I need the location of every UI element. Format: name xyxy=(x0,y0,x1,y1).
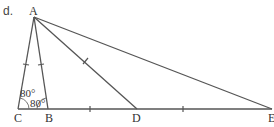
point-label-c: C xyxy=(14,111,22,125)
geometry-diagram: d. 80° 80° A C B D E xyxy=(0,0,274,127)
segment-ae xyxy=(34,17,272,109)
tick-mark-ab xyxy=(38,64,44,65)
segment-ad xyxy=(34,17,137,109)
point-label-d: D xyxy=(132,111,141,125)
tick-mark-ac xyxy=(23,64,29,65)
point-label-e: E xyxy=(268,111,274,125)
point-label-b: B xyxy=(45,111,53,125)
angle-label-b: 80° xyxy=(30,97,45,109)
part-label: d. xyxy=(3,4,13,18)
angle-arc-c xyxy=(20,98,29,109)
segment-ab xyxy=(34,17,48,109)
point-label-a: A xyxy=(29,4,38,18)
